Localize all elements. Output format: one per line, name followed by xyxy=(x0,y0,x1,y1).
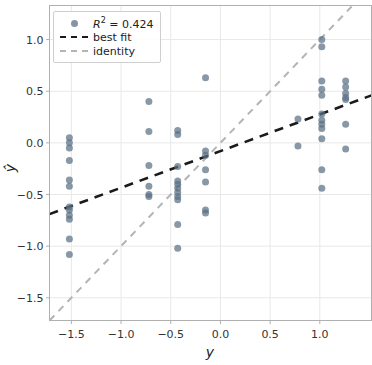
y-tick-label: −0.5 xyxy=(17,188,44,201)
x-tick-label: −1.5 xyxy=(58,328,85,341)
x-tick-label: 0.5 xyxy=(261,328,279,341)
y-tick-label: −1.5 xyxy=(17,291,44,304)
y-tick-label: −1.0 xyxy=(17,240,44,253)
x-tick-label: −1.0 xyxy=(108,328,135,341)
legend-item-best-fit: best fit xyxy=(59,30,153,44)
legend-label-best-fit: best fit xyxy=(93,31,132,44)
x-tick-label: 0.0 xyxy=(212,328,230,341)
y-axis-label: ŷ xyxy=(2,164,18,172)
dashed-line-icon xyxy=(59,36,89,38)
y-tick-label: 0.5 xyxy=(26,85,44,98)
y-tick-label: 1.0 xyxy=(26,33,44,46)
legend-item-r-squared: R2 = 0.424 xyxy=(59,16,153,30)
legend-label-r-squared: R2 = 0.424 xyxy=(93,16,153,31)
scatter-plot-figure: ŷ y R2 = 0.424 best fit identity 1.00.50… xyxy=(0,0,372,365)
dashed-line-grey-icon xyxy=(59,50,89,52)
x-tick-label: 1.0 xyxy=(311,328,329,341)
y-tick-label: 0.0 xyxy=(26,136,44,149)
x-tick-label: −0.5 xyxy=(157,328,184,341)
r-squared-value: 0.424 xyxy=(122,17,154,30)
legend-label-identity: identity xyxy=(93,45,135,58)
x-axis-label: y xyxy=(206,344,214,360)
chart-legend: R2 = 0.424 best fit identity xyxy=(53,11,161,63)
scatter-marker-icon xyxy=(59,20,89,27)
legend-item-identity: identity xyxy=(59,44,153,58)
